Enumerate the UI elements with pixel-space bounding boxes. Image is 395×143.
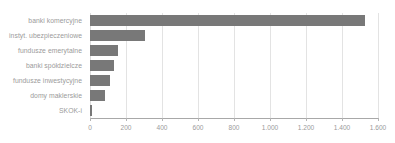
bar bbox=[90, 105, 92, 116]
bar bbox=[90, 75, 110, 86]
tick-mark bbox=[90, 118, 91, 121]
tick-mark bbox=[306, 118, 307, 121]
bar bbox=[90, 60, 114, 71]
gridline-600 bbox=[198, 13, 199, 118]
bar bbox=[90, 45, 118, 56]
plot-area bbox=[90, 13, 378, 118]
gridline-800 bbox=[234, 13, 235, 118]
tick-mark bbox=[162, 118, 163, 121]
tick-label: 800 bbox=[228, 124, 239, 132]
gridline-200 bbox=[126, 13, 127, 118]
bar bbox=[90, 15, 365, 26]
category-label: fundusze emerytalne bbox=[0, 47, 82, 55]
gridline-400 bbox=[162, 13, 163, 118]
category-label: SKOK-i bbox=[0, 107, 82, 115]
bar bbox=[90, 90, 105, 101]
tick-mark bbox=[378, 118, 379, 121]
tick-mark bbox=[126, 118, 127, 121]
bar-chart: banki komercyjneinstyt. ubezpieczeniowef… bbox=[0, 0, 395, 143]
gridline-1.400 bbox=[342, 13, 343, 118]
category-axis: banki komercyjneinstyt. ubezpieczeniowef… bbox=[0, 13, 86, 118]
tick-mark bbox=[198, 118, 199, 121]
tick-label: 1.600 bbox=[370, 124, 387, 132]
tick-label: 1.200 bbox=[298, 124, 315, 132]
tick-label: 600 bbox=[192, 124, 203, 132]
tick-label: 1.400 bbox=[334, 124, 351, 132]
category-label: banki komercyjne bbox=[0, 17, 82, 25]
category-label: instyt. ubezpieczeniowe bbox=[0, 32, 82, 40]
tick-label: 1.000 bbox=[262, 124, 279, 132]
tick-label: 200 bbox=[120, 124, 131, 132]
category-label: fundusze inwestycyjne bbox=[0, 77, 82, 85]
bar bbox=[90, 30, 145, 41]
tick-label: 0 bbox=[88, 124, 92, 132]
tick-mark bbox=[234, 118, 235, 121]
tick-mark bbox=[270, 118, 271, 121]
gridline-1.000 bbox=[270, 13, 271, 118]
category-label: banki spółdzielcze bbox=[0, 62, 82, 70]
tick-label: 400 bbox=[156, 124, 167, 132]
gridline-1.200 bbox=[306, 13, 307, 118]
category-label: domy maklerskie bbox=[0, 92, 82, 100]
gridline-1.600 bbox=[378, 13, 379, 118]
tick-mark bbox=[342, 118, 343, 121]
